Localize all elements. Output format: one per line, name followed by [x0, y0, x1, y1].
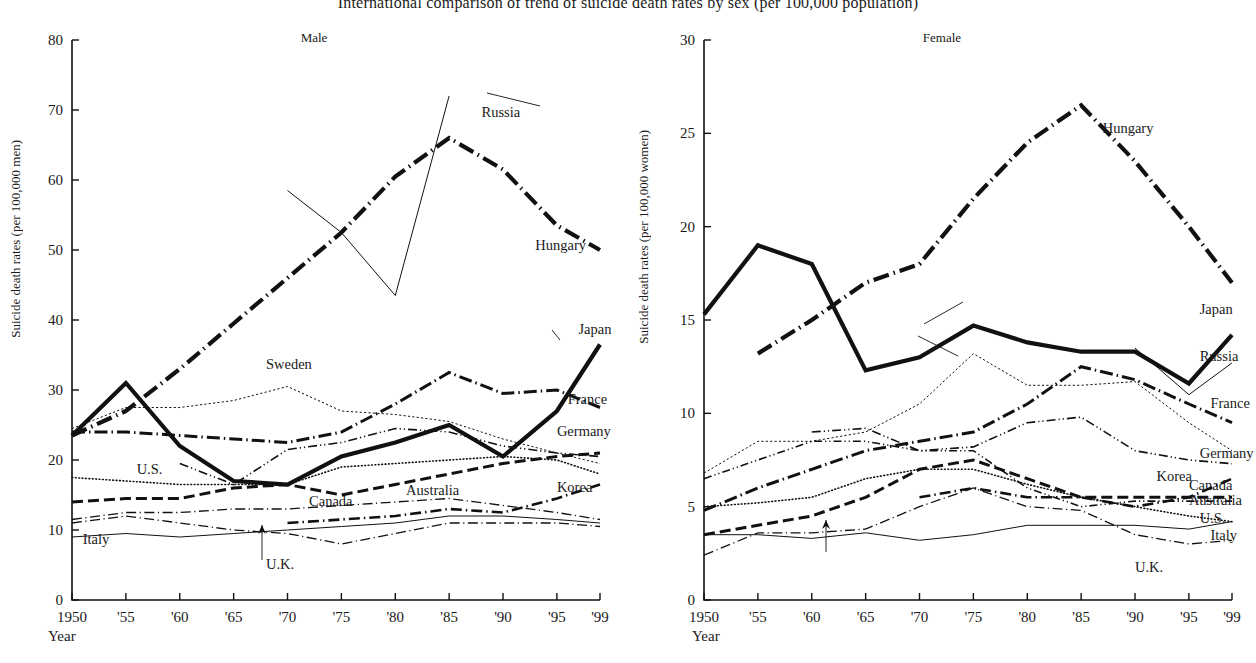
x-tick-label: '80: [1018, 609, 1036, 625]
series-line-hungary: [72, 138, 600, 436]
y-tick-label: 30: [680, 32, 695, 48]
series-label-japan: Japan: [578, 321, 612, 337]
series-line-canada: [704, 460, 1232, 535]
series-label-uk: U.K.: [266, 556, 294, 572]
series-label-hungary: Hungary: [1103, 120, 1154, 136]
series-line-germany: [180, 429, 600, 485]
series-line-germany: [812, 417, 1232, 464]
y-tick-label: 60: [48, 172, 63, 188]
x-tick-label: 1950: [689, 609, 719, 625]
chart-svg-female: 0510152025301950'55'60'65'70'75'80'85'90…: [628, 0, 1256, 663]
series-line-sweden: [72, 387, 600, 464]
leader-japan: [552, 330, 560, 340]
x-tick-label: '95: [548, 609, 566, 625]
series-label-japan: Japan: [1200, 301, 1234, 317]
y-tick-label: 15: [680, 312, 695, 328]
x-tick-label: '60: [803, 609, 821, 625]
x-tick-label: '55: [117, 609, 135, 625]
series-line-russia: [288, 96, 450, 296]
y-tick-label: 0: [56, 592, 64, 608]
series-label-australia: Australia: [406, 482, 460, 498]
x-tick-label: 1950: [57, 609, 87, 625]
chart-svg-male: 010203040506070801950'55'60'65'70'75'80'…: [0, 0, 628, 663]
y-tick-label: 80: [48, 32, 63, 48]
series-label-hungary: Hungary: [535, 237, 586, 253]
series-line-france: [72, 373, 600, 443]
series-label-korea: Korea: [1157, 468, 1193, 484]
series-label-us: U.S.: [137, 461, 163, 477]
series-line-hungary: [758, 105, 1232, 353]
y-tick-label: 30: [48, 382, 63, 398]
series-line-us: [704, 469, 1232, 521]
y-tick-label: 10: [48, 522, 63, 538]
x-tick-label: '70: [911, 609, 929, 625]
x-tick-label: '65: [225, 609, 243, 625]
series-label-sweden: Sweden: [266, 356, 313, 372]
x-tick-label: '55: [749, 609, 767, 625]
y-tick-label: 0: [688, 592, 696, 608]
series-label-uk: U.K.: [1135, 559, 1163, 575]
series-label-australia: Australia: [1189, 492, 1243, 508]
y-tick-label: 70: [48, 102, 63, 118]
x-tick-label: '70: [279, 609, 297, 625]
series-label-russia: Russia: [481, 104, 520, 120]
x-tick-label: '99: [591, 609, 609, 625]
series-label-italy: Italy: [1210, 527, 1237, 543]
x-tick-label: '65: [857, 609, 875, 625]
chart-panel-female: Female Suicide death rates (per 100,000 …: [628, 0, 1256, 663]
x-tick-label: '90: [1126, 609, 1144, 625]
y-tick-label: 25: [680, 125, 695, 141]
series-label-us: U.S.: [1200, 510, 1226, 526]
series-label-germany: Germany: [557, 423, 612, 439]
x-tick-label: '80: [386, 609, 404, 625]
x-tick-label: '85: [1072, 609, 1090, 625]
series-line-italy: [704, 522, 1232, 541]
series-line-sweden: [704, 354, 1232, 474]
series-label-russia: Russia: [1200, 348, 1239, 364]
x-tick-label: '90: [494, 609, 512, 625]
series-label-italy: Italy: [83, 531, 110, 547]
series-label-canada: Canada: [1189, 477, 1233, 493]
leader-japan-female: [924, 302, 963, 324]
series-label-korea: Korea: [557, 479, 593, 495]
y-tick-label: 20: [48, 452, 63, 468]
x-tick-label: '95: [1180, 609, 1198, 625]
y-tick-label: 50: [48, 242, 63, 258]
x-tick-label: '85: [440, 609, 458, 625]
x-tick-label: '75: [965, 609, 983, 625]
y-tick-label: 5: [688, 499, 696, 515]
x-tick-label: '99: [1223, 609, 1241, 625]
series-label-france: France: [1210, 395, 1249, 411]
y-tick-label: 20: [680, 219, 695, 235]
chart-panel-male: Male Suicide death rates (per 100,000 me…: [0, 0, 628, 663]
y-tick-label: 10: [680, 405, 695, 421]
series-label-canada: Canada: [309, 493, 353, 509]
series-label-france: France: [568, 391, 607, 407]
series-label-germany: Germany: [1200, 445, 1255, 461]
y-tick-label: 40: [48, 312, 63, 328]
x-tick-label: '75: [333, 609, 351, 625]
x-tick-label: '60: [171, 609, 189, 625]
